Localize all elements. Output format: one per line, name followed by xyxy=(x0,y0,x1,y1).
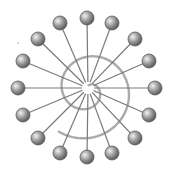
network-graph xyxy=(0,0,171,176)
node-sphere xyxy=(31,32,45,46)
spoke-line xyxy=(87,18,88,82)
spoke-line xyxy=(87,94,88,157)
node-sphere xyxy=(16,54,30,68)
speck xyxy=(17,42,19,44)
node-sphere xyxy=(148,81,162,95)
node-sphere xyxy=(142,54,156,68)
node-sphere xyxy=(11,81,25,95)
node-sphere xyxy=(128,131,142,145)
node-sphere xyxy=(53,146,67,160)
node-sphere xyxy=(80,150,94,164)
radial-network-diagram xyxy=(0,0,171,176)
spoke-line xyxy=(90,23,112,82)
node-sphere xyxy=(142,108,156,122)
node-sphere xyxy=(53,16,67,30)
node-sphere xyxy=(80,11,94,25)
node-sphere xyxy=(105,146,119,160)
node-sphere xyxy=(105,16,119,30)
node-sphere xyxy=(16,108,30,122)
node-sphere xyxy=(31,131,45,145)
node-sphere xyxy=(128,32,142,46)
